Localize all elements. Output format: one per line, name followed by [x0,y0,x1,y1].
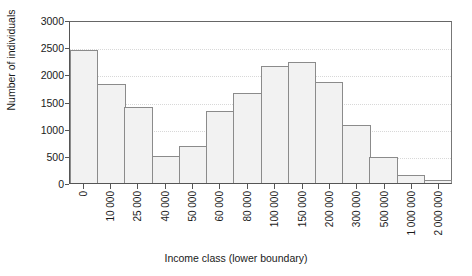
x-tick-label: 1 000 000 [405,191,416,236]
x-tick-mark [110,184,111,189]
x-tick-slot [425,184,452,190]
histogram-figure: Number of individuals 050010001500200025… [0,0,472,276]
x-tick-slot [178,184,205,190]
x-tick-slot [343,184,370,190]
x-tick-label: 500 000 [378,191,389,227]
x-tick-slot [288,184,315,190]
bar [70,50,98,183]
x-tick-mark [83,184,84,189]
x-axis-ticklabels: 010 00025 00040 00050 00060 00080 000100… [69,191,452,243]
bar [342,125,370,183]
y-tick-label: 2000 [41,70,64,80]
x-tick-label: 300 000 [351,191,362,227]
x-tick-slot [151,184,178,190]
x-axis-title: Income class (lower boundary) [0,252,472,264]
bar [233,93,261,183]
x-label-slot: 500 000 [370,191,397,243]
y-tick-label: 1000 [41,125,64,135]
x-tick-label: 100 000 [269,191,280,227]
bar [424,180,452,183]
x-tick-slot [233,184,260,190]
x-label-slot: 60 000 [206,191,233,243]
x-tick-mark [165,184,166,189]
x-tick-mark [356,184,357,189]
y-tick-label: 1500 [41,98,64,108]
bar-series [70,22,451,183]
y-tick-label: 3000 [41,16,64,26]
y-tick-label: 0 [58,179,64,189]
bar [206,111,234,183]
x-label-slot: 50 000 [178,191,205,243]
bar [369,157,397,183]
x-label-slot: 150 000 [288,191,315,243]
x-tick-mark [302,184,303,189]
x-tick-slot [96,184,123,190]
x-tick-mark [329,184,330,189]
bar [179,146,207,183]
y-axis: Number of individuals 050010001500200025… [0,0,69,205]
plot-area [69,21,452,184]
x-tick-label: 60 000 [214,191,225,222]
x-tick-label: 150 000 [296,191,307,227]
x-tick-slot [397,184,424,190]
x-tick-label: 2 000 000 [433,191,444,236]
x-tick-mark [384,184,385,189]
x-tick-slot [261,184,288,190]
x-tick-label: 40 000 [159,191,170,222]
y-tick-label: 2500 [41,43,64,53]
x-tick-label: 80 000 [241,191,252,222]
x-label-slot: 300 000 [343,191,370,243]
x-tick-mark [411,184,412,189]
x-label-slot: 2 000 000 [425,191,452,243]
y-axis-title: Number of individuals [5,0,17,134]
x-tick-label: 50 000 [187,191,198,222]
x-label-slot: 40 000 [151,191,178,243]
x-label-slot: 200 000 [315,191,342,243]
x-tick-mark [192,184,193,189]
x-tick-slot [206,184,233,190]
bar [124,107,152,183]
x-label-slot: 0 [69,191,96,243]
x-tick-label: 200 000 [323,191,334,227]
x-tick-mark [247,184,248,189]
bar [97,84,125,183]
x-tick-label: 0 [77,191,88,197]
bar [315,82,343,183]
x-tick-mark [219,184,220,189]
x-tick-slot [315,184,342,190]
x-tick-slot [124,184,151,190]
x-axis-tickmarks [69,184,452,190]
bar [397,175,425,183]
bar [288,62,316,183]
x-label-slot: 1 000 000 [397,191,424,243]
bar [152,156,180,183]
x-label-slot: 100 000 [261,191,288,243]
x-label-slot: 10 000 [96,191,123,243]
x-tick-mark [137,184,138,189]
bar [261,66,289,183]
x-label-slot: 25 000 [124,191,151,243]
x-tick-mark [274,184,275,189]
x-label-slot: 80 000 [233,191,260,243]
x-tick-mark [438,184,439,189]
x-tick-label: 10 000 [105,191,116,222]
x-tick-slot [69,184,96,190]
x-tick-label: 25 000 [132,191,143,222]
x-tick-slot [370,184,397,190]
y-tick-label: 500 [46,152,64,162]
